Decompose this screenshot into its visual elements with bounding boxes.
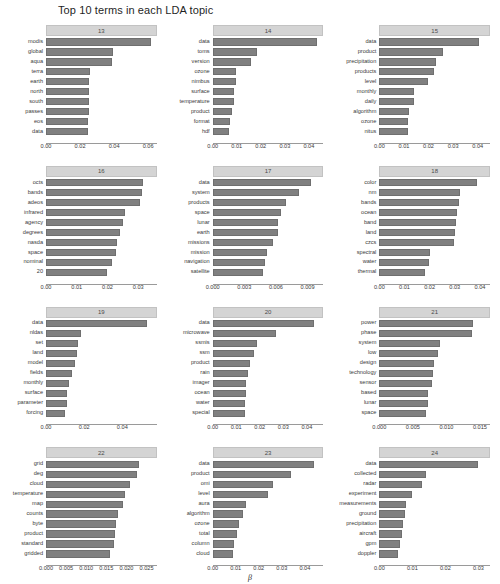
bar-row: data bbox=[379, 459, 490, 469]
x-tick-label: 0.02 bbox=[79, 425, 90, 431]
bar bbox=[46, 370, 72, 377]
term-label: temperature bbox=[179, 99, 209, 105]
term-label: nldas bbox=[30, 331, 43, 337]
bar bbox=[213, 249, 268, 256]
bar bbox=[379, 320, 473, 327]
term-label: spectral bbox=[357, 250, 377, 256]
term-label: mission bbox=[191, 250, 210, 256]
facet-strip-label: 16 bbox=[46, 166, 157, 177]
bar-row: earth bbox=[46, 77, 157, 87]
term-label: product bbox=[191, 361, 210, 367]
bar-row: ocean bbox=[213, 388, 324, 398]
facet-strip-label: 18 bbox=[379, 166, 490, 177]
x-tick-label: 0.03 bbox=[473, 566, 484, 572]
bar bbox=[379, 128, 407, 135]
term-label: version bbox=[192, 59, 210, 65]
term-label: data bbox=[365, 39, 376, 45]
term-label: 20 bbox=[37, 270, 43, 276]
plot-area: griddegcloudtemperaturemapcountsbyteprod… bbox=[46, 459, 157, 559]
chart-root: Top 10 terms in each LDA topic 13modisgl… bbox=[0, 0, 500, 584]
bar bbox=[379, 530, 402, 537]
facet-panel: 20datamicrowavessmisssmproductrainimager… bbox=[167, 303, 334, 444]
bar-row: version bbox=[213, 57, 324, 67]
plot-area: datamicrowavessmisssmproductrainimageroc… bbox=[213, 319, 324, 419]
facet-strip-label: 23 bbox=[213, 447, 324, 458]
x-tick-label: 0.003 bbox=[237, 285, 251, 291]
term-label: bands bbox=[361, 200, 376, 206]
term-label: product bbox=[24, 531, 43, 537]
bar bbox=[213, 219, 278, 226]
bar bbox=[379, 390, 428, 397]
x-axis-ticks: 0.0000.0050.0100.015 bbox=[379, 425, 490, 435]
facet-panel: 17datasystemproductsspacelunarearthmissi… bbox=[167, 162, 334, 303]
bar-row: nm bbox=[379, 188, 490, 198]
bar-row: imager bbox=[213, 378, 324, 388]
term-label: land bbox=[32, 351, 43, 357]
term-label: hdf bbox=[202, 129, 210, 135]
x-tick-label: 0.02 bbox=[253, 566, 264, 572]
bar-row: product bbox=[213, 469, 324, 479]
bar bbox=[213, 510, 243, 517]
term-label: cloud bbox=[30, 481, 43, 487]
term-label: terra bbox=[31, 69, 43, 75]
x-tick-label: 0.04 bbox=[301, 425, 312, 431]
term-label: passes bbox=[25, 109, 43, 115]
bar bbox=[379, 189, 459, 196]
bar bbox=[379, 330, 472, 337]
term-label: map bbox=[32, 501, 43, 507]
bar-row: format bbox=[213, 117, 324, 127]
bar-row: land bbox=[379, 228, 490, 238]
bar-row: system bbox=[213, 188, 324, 198]
bar bbox=[46, 189, 142, 196]
bar-row: column bbox=[213, 539, 324, 549]
bar bbox=[46, 48, 113, 55]
term-label: nimbus bbox=[192, 79, 210, 85]
term-label: ozone bbox=[194, 69, 209, 75]
bar-row: system bbox=[379, 338, 490, 348]
term-label: octs bbox=[33, 180, 43, 186]
facet-topic-id: 20 bbox=[265, 309, 272, 315]
bar-row: ground bbox=[379, 509, 490, 519]
bar-row: aqua bbox=[46, 57, 157, 67]
term-label: surface bbox=[191, 89, 209, 95]
bar bbox=[379, 481, 422, 488]
bar bbox=[46, 380, 69, 387]
bar bbox=[213, 209, 282, 216]
bar-row: ssm bbox=[213, 348, 324, 358]
bar bbox=[46, 269, 107, 276]
bar bbox=[46, 249, 116, 256]
bar-row: octs bbox=[46, 178, 157, 188]
x-tick-label: 0.015 bbox=[473, 425, 487, 431]
term-label: omi bbox=[201, 481, 210, 487]
x-tick-label: 0.02 bbox=[423, 144, 434, 150]
facet-strip-label: 15 bbox=[379, 25, 490, 36]
bar bbox=[379, 370, 433, 377]
term-label: global bbox=[28, 49, 43, 55]
bar bbox=[46, 38, 151, 45]
bar bbox=[46, 199, 140, 206]
bar-row: space bbox=[379, 408, 490, 418]
facet-strip-label: 22 bbox=[46, 447, 157, 458]
term-label: standard bbox=[21, 541, 43, 547]
term-label: parameter bbox=[18, 400, 44, 406]
page-title: Top 10 terms in each LDA topic bbox=[58, 4, 213, 16]
bar bbox=[46, 179, 143, 186]
bar-row: gpm bbox=[379, 539, 490, 549]
x-tick-label: 0.00 bbox=[374, 144, 385, 150]
bar-row: measurements bbox=[379, 499, 490, 509]
term-label: ssm bbox=[199, 351, 209, 357]
bar-row: cloud bbox=[213, 549, 324, 559]
term-label: ssmis bbox=[195, 341, 209, 347]
bar bbox=[379, 461, 478, 468]
facet-strip-label: 19 bbox=[46, 307, 157, 318]
facet-topic-id: 16 bbox=[98, 168, 105, 174]
facet-topic-id: 21 bbox=[431, 309, 438, 315]
plot-area: datatomsversionozonenimbussurfacetempera… bbox=[213, 37, 324, 137]
bar bbox=[379, 78, 428, 85]
term-label: nm bbox=[369, 190, 377, 196]
term-label: precipitation bbox=[346, 521, 376, 527]
bar-rows: colornmbandsoceanbandlandczcsspectralwat… bbox=[379, 178, 490, 278]
x-tick-label: 0.00 bbox=[207, 144, 218, 150]
x-tick-label: 0.04 bbox=[117, 425, 128, 431]
bar-row: technology bbox=[379, 368, 490, 378]
